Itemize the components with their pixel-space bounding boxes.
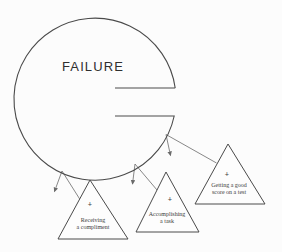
triangle-good-test-score: + Getting a good score on a test	[195, 144, 265, 204]
connector-to-test-triangle	[166, 135, 217, 164]
triangle-shape	[195, 144, 265, 204]
failure-diagram: FAILURE + Receiving a compliment + Accom…	[0, 0, 282, 252]
short-arrow-left	[55, 171, 63, 192]
failure-label: FAILURE	[62, 59, 124, 74]
triangle-label-line1: Accomplishing	[149, 211, 186, 217]
triangle-label-line2: a task	[160, 218, 174, 224]
triangle-accomplishing-task: + Accomplishing a task	[136, 172, 199, 232]
failure-circle-group: FAILURE	[14, 18, 175, 180]
connector-to-compliment-triangle	[62, 171, 80, 200]
triangle-label-line2: a compliment	[77, 224, 110, 230]
plus-icon: +	[168, 195, 172, 204]
triangle-receiving-compliment: + Receiving a compliment	[58, 180, 128, 239]
triangle-shape	[58, 180, 128, 239]
short-arrow-middle	[133, 164, 136, 184]
plus-icon: +	[88, 200, 92, 209]
plus-icon: +	[225, 170, 229, 179]
failure-circle-shape	[14, 18, 175, 180]
diagram-page: FAILURE + Receiving a compliment + Accom…	[0, 0, 282, 252]
triangle-label-line2: score on a test	[212, 189, 246, 195]
connector-lines	[55, 135, 217, 200]
triangle-label-line1: Receiving	[81, 217, 105, 223]
triangle-label-line1: Getting a good	[211, 182, 247, 188]
